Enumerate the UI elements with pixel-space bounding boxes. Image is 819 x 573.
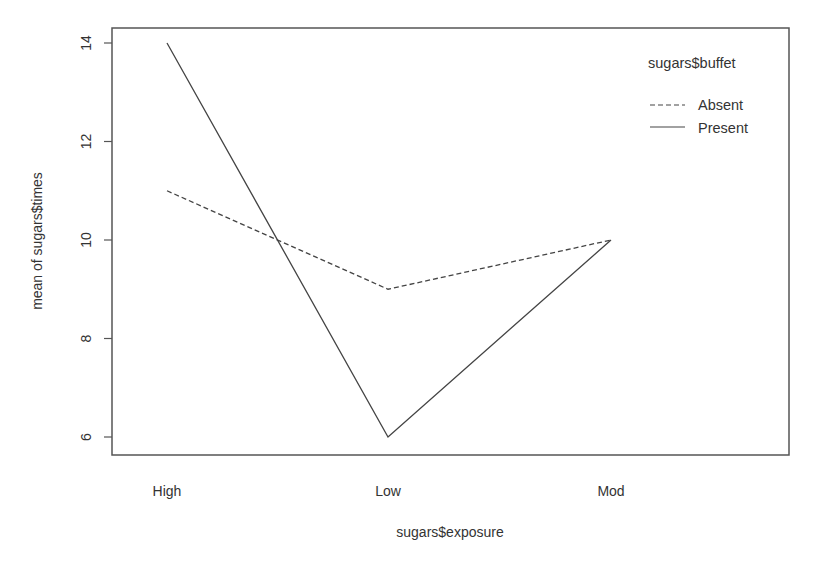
legend-entry-present: Present [698,120,748,136]
interaction-plot: 68101214 HighLowMod sugars$exposure mean… [0,0,819,573]
y-axis-title: mean of sugars$times [29,172,45,310]
series-layer [167,43,611,437]
x-tick-label: Mod [597,483,624,499]
x-tick-label: Low [375,483,402,499]
x-axis-title: sugars$exposure [396,524,504,540]
series-line-absent [167,191,611,290]
series-line-present [167,43,611,437]
y-tick-label: 10 [78,232,94,248]
y-tick-label: 12 [78,134,94,150]
x-axis: HighLowMod [153,483,625,499]
legend: sugars$buffet Absent Present [648,55,748,136]
y-tick-label: 6 [78,433,94,441]
plot-frame [112,28,789,455]
legend-title: sugars$buffet [648,55,736,71]
y-axis: 68101214 [78,35,112,441]
legend-entry-absent: Absent [698,97,743,113]
y-tick-label: 8 [78,334,94,342]
x-tick-label: High [153,483,182,499]
y-tick-label: 14 [78,35,94,51]
